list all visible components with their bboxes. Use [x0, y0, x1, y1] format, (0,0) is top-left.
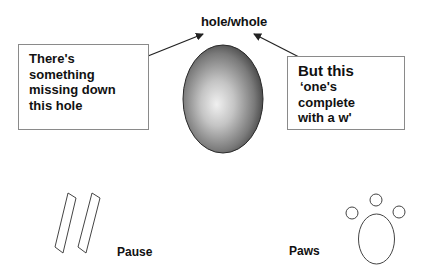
diagram-title: hole/whole	[201, 14, 267, 29]
left-callout-line: missing down	[29, 82, 148, 98]
paw-toe-middle	[370, 194, 382, 206]
paw-pad	[359, 214, 395, 264]
pause-bar-left	[55, 193, 76, 253]
paw-toe-right	[393, 206, 405, 218]
paw-print-icon	[346, 194, 405, 264]
pause-bar-right	[78, 193, 100, 253]
hole-egg-icon	[183, 45, 263, 153]
diagram-canvas: hole/whole There's something missing dow…	[0, 0, 431, 275]
arrow-left-to-title	[148, 34, 203, 56]
left-callout-line: There's	[29, 51, 148, 67]
right-callout-box: But this ‘one's complete with a w'	[287, 56, 405, 130]
right-callout-line: with a w'	[298, 110, 404, 126]
left-callout-line: this hole	[29, 98, 148, 114]
arrow-right-to-title	[254, 34, 299, 57]
paws-label: Paws	[289, 244, 320, 258]
left-callout-line: something	[29, 67, 148, 83]
pause-label: Pause	[117, 245, 152, 259]
diagram-shapes	[0, 0, 431, 275]
left-callout-box: There's something missing down this hole	[18, 44, 149, 130]
right-callout-line: complete	[298, 95, 404, 111]
paw-toe-left	[346, 207, 358, 219]
pause-icon	[55, 193, 100, 253]
right-callout-line: ‘one's	[298, 79, 404, 95]
right-callout-line: But this	[298, 62, 404, 79]
